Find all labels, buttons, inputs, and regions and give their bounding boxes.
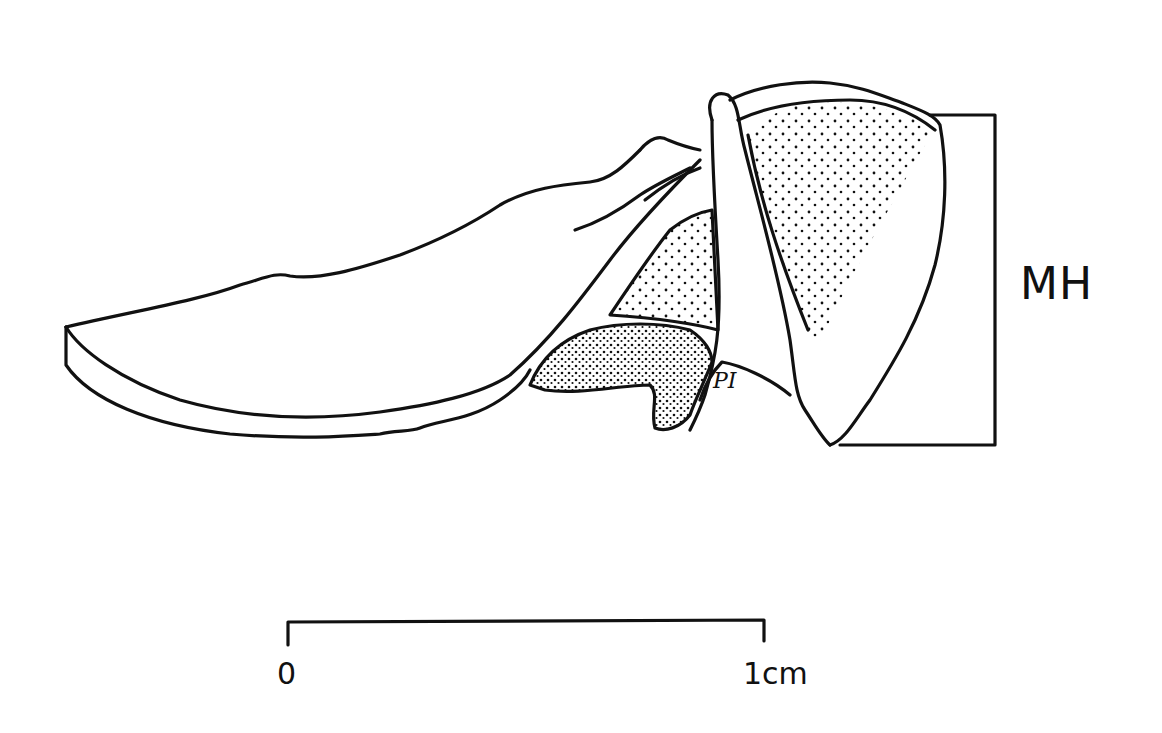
- scale-bar-start-label: 0: [277, 656, 296, 691]
- scale-bar-end-label: 1cm: [743, 656, 808, 691]
- blade-outline: [66, 150, 700, 437]
- label-pi: PI: [713, 368, 737, 393]
- specimen-figure: [0, 0, 1162, 733]
- right-lobe: [730, 82, 945, 445]
- scale-bar: [288, 620, 764, 645]
- label-mh: MH: [1020, 258, 1093, 309]
- lower-stippled-lobe: [530, 324, 712, 429]
- middle-stippled-region: [610, 210, 718, 330]
